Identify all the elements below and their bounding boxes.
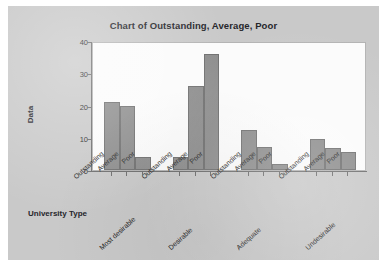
x-tick-mark [111,172,112,176]
bar [204,54,220,170]
x-tick-mark [179,172,180,176]
y-tick-mark [87,139,91,140]
x-tick-mark [347,172,348,176]
x-tick-mark [195,172,196,176]
x-tick-mark [332,172,333,176]
bar [341,152,357,170]
y-axis-title: Data [26,85,35,145]
x-tick-mark [142,172,143,176]
y-tick-label: 40 [62,38,88,47]
y-tick-mark [87,107,91,108]
y-axis-tick-labels: 010203040 [58,6,88,266]
x-tick-mark [248,172,249,176]
y-tick-mark [87,74,91,75]
x-tick-mark [126,172,127,176]
x-group-label: Most desirable [98,216,137,252]
x-group-label: Desirable [167,226,194,251]
y-tick-mark [87,171,91,172]
y-tick-mark [87,42,91,43]
x-tick-mark [210,172,211,176]
x-axis-title: University Type [28,209,87,218]
y-tick-label: 10 [62,134,88,143]
y-tick-label: 30 [62,70,88,79]
chart-figure: Chart of Outstanding, Average, Poor Data… [8,6,379,260]
x-tick-mark [316,172,317,176]
x-tick-mark [263,172,264,176]
y-tick-label: 20 [62,102,88,111]
x-group-label: Adequate [235,226,262,251]
x-group-label: Undesirable [304,221,336,251]
bars-container [93,43,365,170]
x-tick-mark [279,172,280,176]
